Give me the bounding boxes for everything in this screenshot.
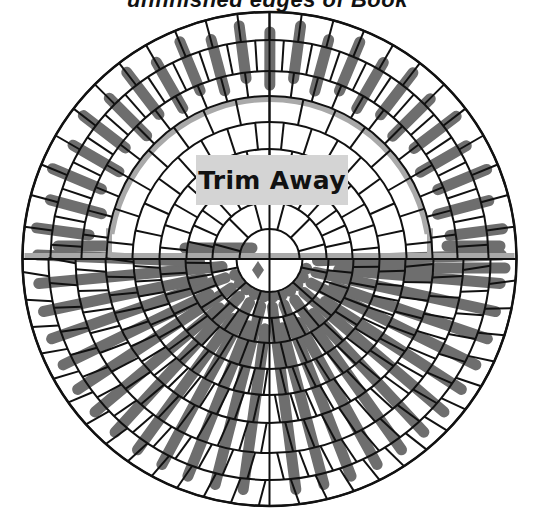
circular-page-diagram <box>0 0 535 524</box>
trim-away-text: Trim Away <box>198 166 346 195</box>
trim-away-label: Trim Away <box>196 155 348 205</box>
ring-grid <box>22 12 516 506</box>
diamond-marker <box>252 261 264 279</box>
